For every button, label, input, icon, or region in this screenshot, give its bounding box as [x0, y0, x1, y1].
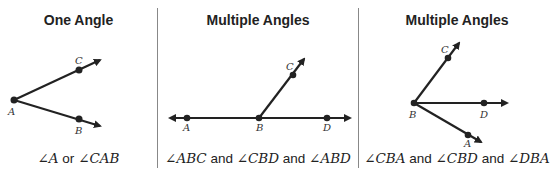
caption: ∠CBA and ∠CBD and ∠DBA [359, 150, 555, 166]
label-c: C [75, 55, 83, 66]
label-a: A [463, 138, 471, 149]
angle-abc: ∠ABC [165, 150, 207, 166]
label-c: C [286, 61, 294, 72]
point-b [256, 115, 263, 122]
conj: and [478, 151, 508, 166]
label-c: C [441, 44, 449, 55]
angle-cbd: ∠CBD [436, 150, 478, 166]
label-a: A [7, 106, 15, 117]
label-a: A [182, 122, 190, 133]
angle-cab: ∠CAB [78, 150, 119, 166]
panel-one-angle: One Angle A C B ∠A or ∠CAB [0, 0, 157, 178]
angle-dba: ∠DBA [508, 150, 550, 166]
point-a [184, 115, 191, 122]
label-b: B [74, 125, 82, 136]
conj: and [279, 151, 309, 166]
point-a [11, 97, 18, 104]
conj: and [207, 151, 237, 166]
point-b [76, 116, 83, 123]
label-b: B [408, 109, 416, 120]
point-c [445, 55, 452, 62]
label-b: B [255, 122, 263, 133]
angle-cbd: ∠CBD [237, 150, 279, 166]
angle-a: ∠A [38, 150, 59, 166]
point-d [324, 115, 331, 122]
conj: and [406, 151, 436, 166]
panel-multiple-angles-1: Multiple Angles A B D C ∠ABC and ∠CBD an… [158, 0, 358, 178]
conj: or [59, 151, 79, 166]
point-d [481, 100, 488, 107]
caption: ∠A or ∠CAB [0, 150, 157, 166]
caption: ∠ABC and ∠CBD and ∠ABD [158, 150, 358, 166]
label-d: D [479, 109, 488, 120]
angle-cba: ∠CBA [364, 150, 405, 166]
point-c [76, 67, 83, 74]
point-b [411, 100, 418, 107]
point-c [290, 72, 297, 79]
label-d: D [322, 122, 331, 133]
angle-abd: ∠ABD [309, 150, 351, 166]
panel-multiple-angles-2: Multiple Angles B C D A ∠CBA and ∠CBD an… [359, 0, 555, 178]
